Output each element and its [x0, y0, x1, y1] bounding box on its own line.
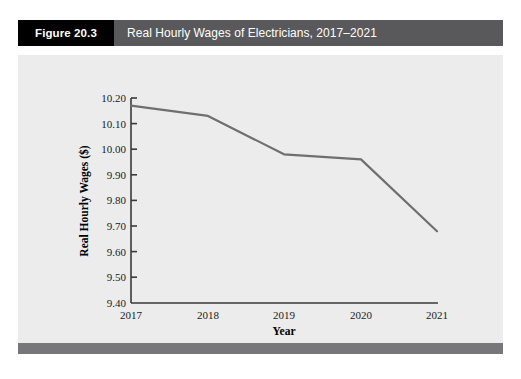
y-tick-label-10.20: 10.20	[101, 92, 126, 104]
x-tick-label-2019: 2019	[273, 309, 296, 321]
chart-plot-region: 10.20 10.10 10.00 9.90 9.80 9.70 9.60 9.…	[18, 55, 503, 343]
x-tick-label-2021: 2021	[426, 309, 448, 321]
y-tick-label-10.10: 10.10	[101, 118, 126, 130]
y-tick-label-10.00: 10.00	[101, 143, 126, 155]
y-axis-title: Real Hourly Wages ($)	[78, 145, 91, 256]
x-tick-label-2020: 2020	[350, 309, 373, 321]
figure-title: Real Hourly Wages of Electricians, 2017–…	[114, 20, 503, 46]
y-tick-label-9.50: 9.50	[107, 271, 127, 283]
line-chart-svg: 10.20 10.10 10.00 9.90 9.80 9.70 9.60 9.…	[18, 55, 503, 343]
x-axis-title: Year	[273, 325, 296, 337]
y-tick-label-9.90: 9.90	[107, 169, 127, 181]
figure-bottom-rule	[18, 343, 503, 354]
y-tick-label-9.40: 9.40	[107, 297, 127, 309]
figure-panel: 10.20 10.10 10.00 9.90 9.80 9.70 9.60 9.…	[18, 55, 503, 343]
y-tick-label-9.60: 9.60	[107, 246, 127, 258]
figure-number-badge: Figure 20.3	[18, 20, 114, 46]
y-tick-label-9.70: 9.70	[107, 220, 127, 232]
figure-header: Figure 20.3 Real Hourly Wages of Electri…	[18, 20, 503, 46]
y-tick-label-9.80: 9.80	[107, 194, 127, 206]
x-tick-label-2018: 2018	[197, 309, 220, 321]
x-tick-label-2017: 2017	[120, 309, 143, 321]
chart-background	[18, 55, 503, 343]
